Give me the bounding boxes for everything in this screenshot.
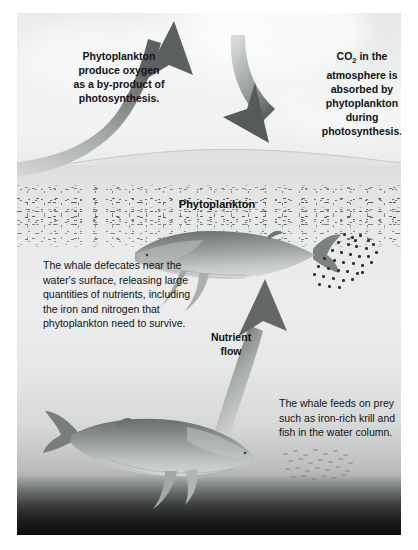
diagram-root: Phytoplankton produce oxygen as a by-pro… bbox=[0, 0, 418, 550]
nutrient-flow-label-line2: flow bbox=[221, 345, 242, 357]
oxygen-caption-line2: produce oxygen bbox=[78, 64, 159, 76]
whale-feeding-caption: The whale feeds on prey such as iron-ric… bbox=[279, 396, 401, 440]
oxygen-caption: Phytoplankton produce oxygen as a by-pro… bbox=[53, 49, 185, 105]
co2-caption-line5: during bbox=[346, 111, 379, 123]
oxygen-caption-line1: Phytoplankton bbox=[83, 50, 156, 62]
nutrient-flow-label: Nutrient flow bbox=[200, 331, 262, 358]
oxygen-caption-line4: photosynthesis. bbox=[79, 92, 160, 104]
co2-caption-line6: photosynthesis. bbox=[322, 125, 401, 137]
nutrient-flow-label-line1: Nutrient bbox=[211, 331, 251, 343]
co2-caption: CO2 in the atmosphere is absorbed by phy… bbox=[307, 49, 401, 138]
whale-defecation-caption: The whale defecates near the water's sur… bbox=[43, 258, 193, 331]
co2-caption-line1-pre: CO bbox=[337, 50, 353, 62]
co2-caption-line1-post: in the bbox=[357, 50, 388, 62]
krill-swarm bbox=[309, 231, 379, 293]
co2-caption-line2: atmosphere is bbox=[326, 69, 397, 81]
illustration-frame: Phytoplankton produce oxygen as a by-pro… bbox=[17, 13, 401, 535]
co2-caption-line3: absorbed by bbox=[331, 83, 393, 95]
phytoplankton-label: Phytoplankton bbox=[147, 198, 287, 210]
co2-caption-line4: phytoplankton bbox=[326, 97, 398, 109]
fish-school bbox=[279, 445, 365, 487]
whale-feeding-deep bbox=[37, 401, 277, 511]
oxygen-caption-line3: as a by-product of bbox=[73, 78, 164, 90]
